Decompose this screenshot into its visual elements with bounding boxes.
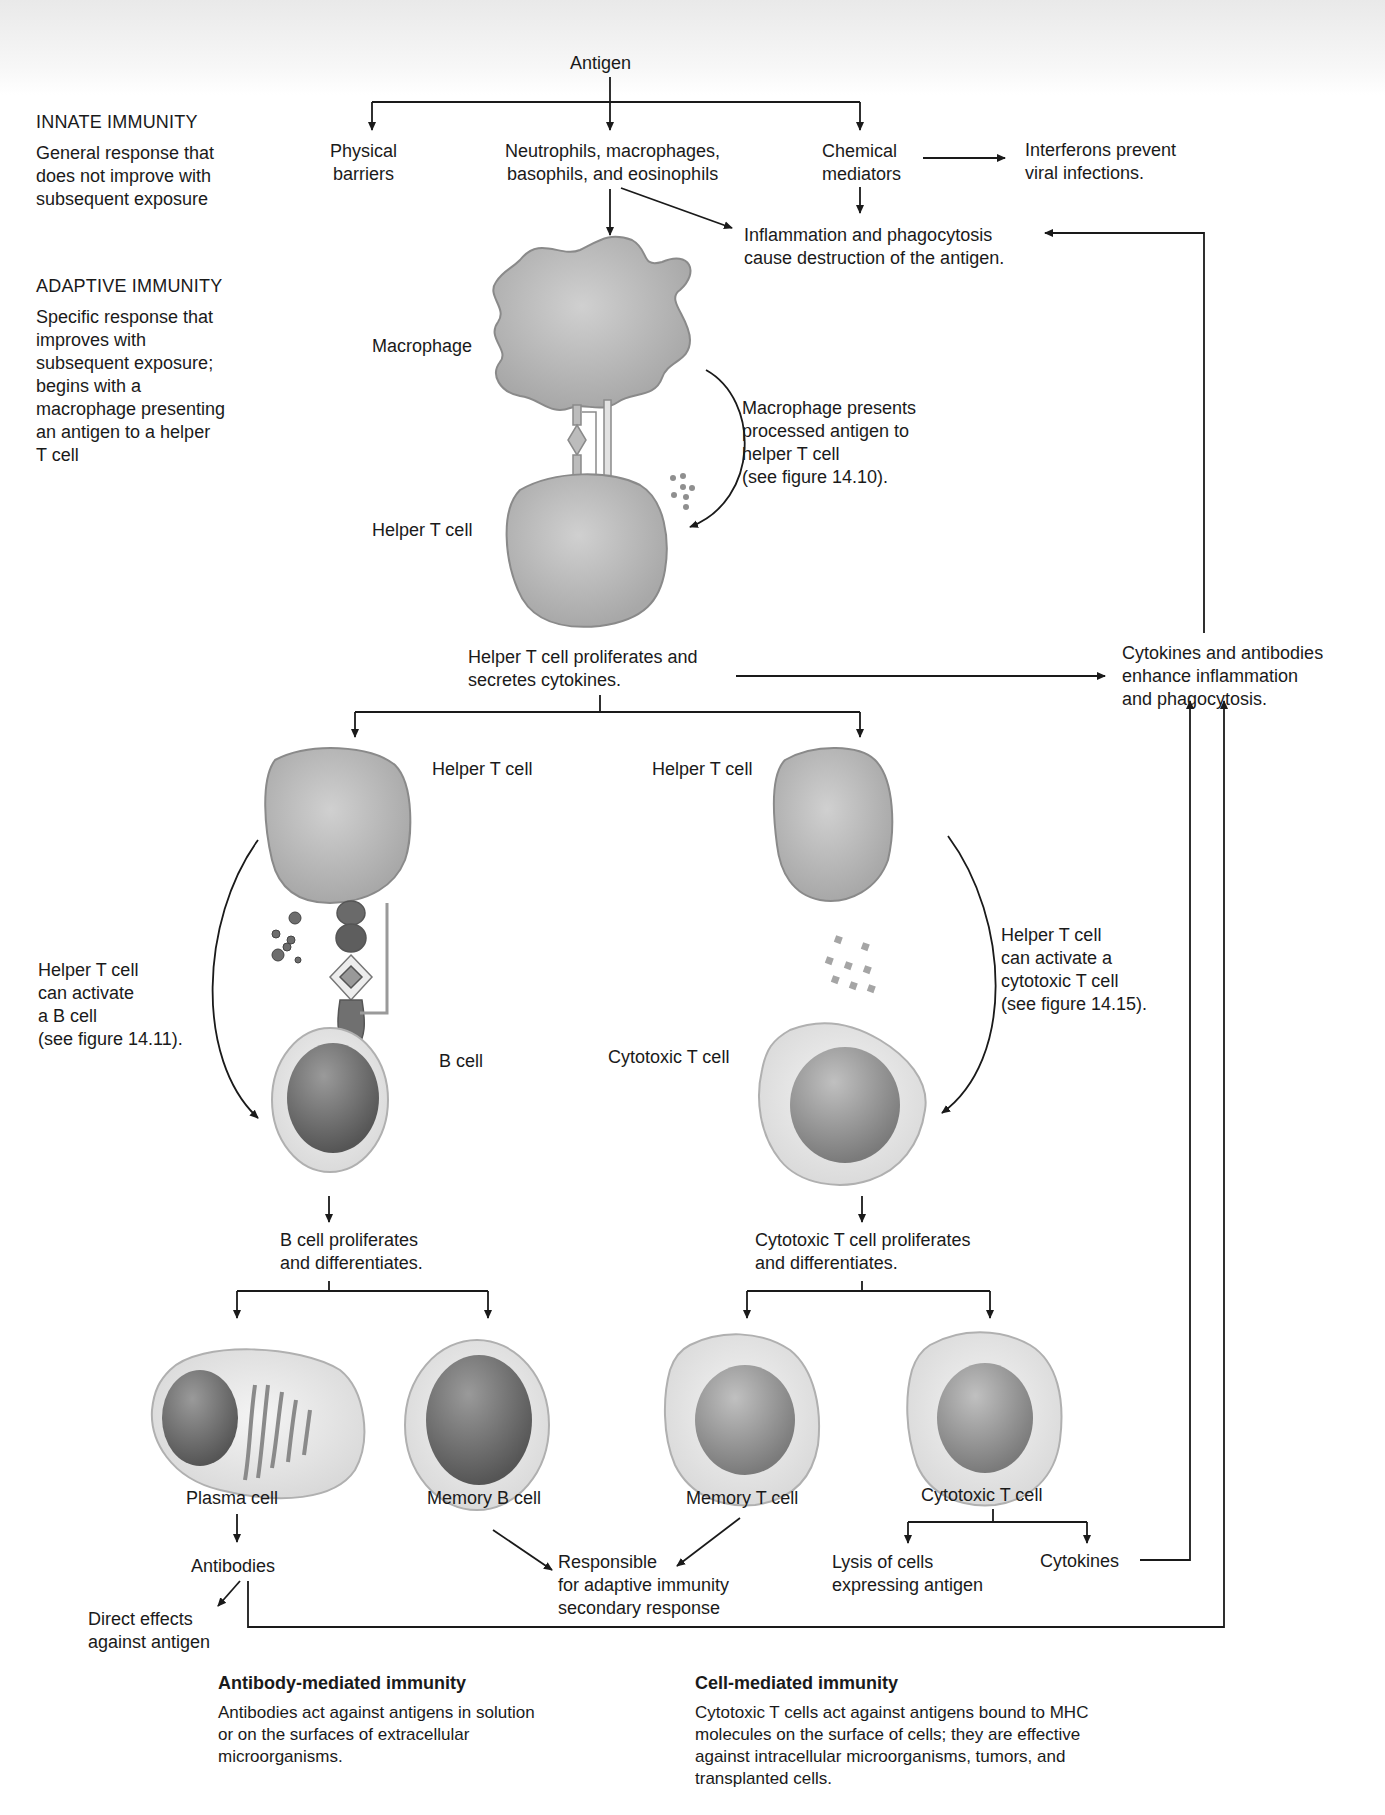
helper-t-cell-label: Helper T cell — [372, 519, 472, 542]
helper-t-proliferates-label: Helper T cell proliferates and secretes … — [468, 646, 697, 692]
memory-t-cell — [665, 1334, 819, 1505]
memory-b-cell-label: Memory B cell — [427, 1487, 541, 1510]
cytotoxic-t-cell — [759, 1023, 926, 1185]
cytokines-antibodies-enhance-label: Cytokines and antibodies enhance inflamm… — [1122, 642, 1323, 711]
chemical-mediators-label: Chemical mediators — [822, 140, 901, 186]
t-activation-note: Helper T cell can activate a cytotoxic T… — [1001, 924, 1147, 1016]
helper-t-cell-right-label: Helper T cell — [652, 758, 752, 781]
cytokine-particles-t — [825, 935, 876, 993]
diagram-graphics — [0, 0, 1385, 1815]
interferons-label: Interferons prevent viral infections. — [1025, 139, 1176, 185]
helper-t-cell-left — [265, 748, 410, 903]
macrophage-cell — [493, 237, 690, 410]
helper-t-cell-left-label: Helper T cell — [432, 758, 532, 781]
cell-mediated-title: Cell-mediated immunity — [695, 1672, 898, 1695]
b-cell-label: B cell — [439, 1050, 483, 1073]
direct-effects-label: Direct effects against antigen — [88, 1608, 210, 1654]
antibodies-label: Antibodies — [191, 1555, 275, 1578]
cytokines-label: Cytokines — [1040, 1550, 1119, 1573]
lysis-label: Lysis of cells expressing antigen — [832, 1551, 983, 1597]
physical-barriers-label: Physical barriers — [330, 140, 397, 186]
innate-immunity-description: General response that does not improve w… — [36, 142, 214, 211]
cytotoxic-t-cell-bottom — [907, 1332, 1061, 1505]
antigen-label: Antigen — [570, 52, 631, 75]
cell-mediated-text: Cytotoxic T cells act against antigens b… — [695, 1702, 1088, 1790]
plasma-cell — [152, 1349, 364, 1498]
adaptive-immunity-heading: ADAPTIVE IMMUNITY — [36, 275, 222, 298]
inflammation-label: Inflammation and phagocytosis cause dest… — [744, 224, 1004, 270]
b-activation-note: Helper T cell can activate a B cell (see… — [38, 959, 183, 1051]
cytotoxic-t-proliferates-label: Cytotoxic T cell proliferates and differ… — [755, 1229, 970, 1275]
adaptive-immunity-description: Specific response that improves with sub… — [36, 306, 225, 467]
helper-t-cell-right — [774, 748, 892, 901]
antibody-mediated-title: Antibody-mediated immunity — [218, 1672, 466, 1695]
b-cell-proliferates-label: B cell proliferates and differentiates. — [280, 1229, 423, 1275]
cytokine-particles-b — [272, 912, 301, 963]
b-cell — [272, 1028, 388, 1172]
secondary-response-label: Responsible for adaptive immunity second… — [558, 1551, 729, 1620]
helper-t-cell-top — [507, 474, 667, 627]
memory-t-cell-label: Memory T cell — [686, 1487, 798, 1510]
phagocytes-label: Neutrophils, macrophages, basophils, and… — [505, 140, 720, 186]
innate-immunity-heading: INNATE IMMUNITY — [36, 111, 198, 134]
antigen-fragments — [670, 473, 695, 510]
cytotoxic-t-cell-label: Cytotoxic T cell — [608, 1046, 729, 1069]
macrophage-label: Macrophage — [372, 335, 472, 358]
memory-b-cell — [405, 1340, 549, 1510]
antibody-mediated-text: Antibodies act against antigens in solut… — [218, 1702, 535, 1768]
macrophage-presents-note: Macrophage presents processed antigen to… — [742, 397, 916, 489]
plasma-cell-label: Plasma cell — [186, 1487, 278, 1510]
cytotoxic-t-cell-bottom-label: Cytotoxic T cell — [921, 1484, 1042, 1507]
